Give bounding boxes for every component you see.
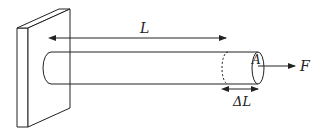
elongation-label: ΔL [232, 94, 251, 109]
original-end-dashed-ellipse [222, 52, 228, 84]
rod [43, 52, 258, 84]
rod-tension-diagram: L A F ΔL [0, 0, 317, 131]
force-label: F [299, 58, 311, 74]
length-label: L [139, 20, 149, 36]
area-label: A [251, 53, 261, 67]
